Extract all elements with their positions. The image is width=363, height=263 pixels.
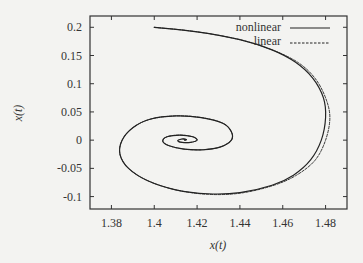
legend-label-nonlinear: nonlinear (236, 20, 281, 34)
y-tick-label: -0.1 (63, 190, 82, 204)
x-tick-label: 1.42 (187, 216, 208, 230)
x-tick-label: 1.44 (229, 216, 250, 230)
y-tick-label: 0.2 (67, 20, 82, 34)
y-tick-label: -0.05 (57, 161, 82, 175)
y-tick-label: 0.05 (61, 105, 82, 119)
y-tick-label: 0.1 (67, 77, 82, 91)
legend-label-linear: linear (254, 34, 281, 48)
x-tick-label: 1.4 (147, 216, 162, 230)
x-tick-label: 1.48 (315, 216, 336, 230)
x-tick-label: 1.38 (101, 216, 122, 230)
y-tick-label: 0.15 (61, 49, 82, 63)
x-axis-label: x(t) (209, 238, 227, 252)
x-tick-label: 1.46 (272, 216, 293, 230)
y-tick-label: 0 (76, 133, 82, 147)
phase-portrait-chart: 1.381.41.421.441.461.480.20.150.10.050-0… (0, 0, 363, 263)
y-axis-label: x(t) (11, 105, 25, 123)
chart-background (0, 0, 363, 263)
